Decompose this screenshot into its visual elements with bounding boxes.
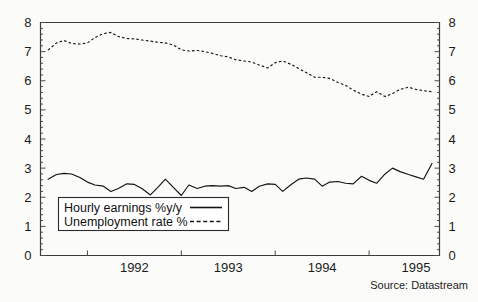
y-axis-left-label: 3 [24, 161, 31, 176]
series-line-1 [48, 163, 432, 195]
y-axis-left-label: 4 [24, 132, 31, 147]
y-axis-left-label: 2 [24, 190, 31, 205]
x-axis-label: 1992 [120, 260, 149, 275]
y-axis-left-label: 7 [24, 44, 31, 59]
chart-canvas: 876543210 876543210 1992199319941995 Hou… [0, 0, 478, 302]
y-axis-left-ticks: 876543210 [24, 15, 45, 263]
source-note: Source: Datastream [370, 279, 468, 291]
y-axis-right-label: 7 [449, 44, 456, 59]
data-series-group [48, 32, 432, 195]
y-axis-right-label: 4 [449, 132, 456, 147]
y-axis-left-label: 6 [24, 73, 31, 88]
y-axis-right-label: 6 [449, 73, 456, 88]
x-axis-ticks: 1992199319941995 [87, 251, 430, 275]
y-axis-right-ticks: 876543210 [435, 15, 456, 263]
y-axis-right-label: 2 [449, 190, 456, 205]
y-axis-left-label: 1 [24, 219, 31, 234]
y-axis-right-label: 3 [449, 161, 456, 176]
legend-label-unemployment-rate: Unemployment rate % [64, 215, 188, 229]
chart-figure: 876543210 876543210 1992199319941995 Hou… [0, 0, 478, 302]
series-line-2 [48, 32, 432, 96]
x-axis-label: 1993 [214, 260, 243, 275]
x-axis-label: 1994 [308, 260, 337, 275]
y-axis-right-label: 5 [449, 102, 456, 117]
y-axis-left-label: 5 [24, 102, 31, 117]
y-axis-right-label: 0 [449, 248, 456, 263]
legend-label-hourly-earnings: Hourly earnings %y/y [64, 201, 183, 215]
y-axis-right-label: 8 [449, 15, 456, 30]
y-axis-right-label: 1 [449, 219, 456, 234]
y-axis-left-label: 8 [24, 15, 31, 30]
x-axis-label: 1995 [402, 260, 431, 275]
y-axis-left-label: 0 [24, 248, 31, 263]
chart-legend: Hourly earnings %y/y Unemployment rate % [59, 198, 229, 231]
